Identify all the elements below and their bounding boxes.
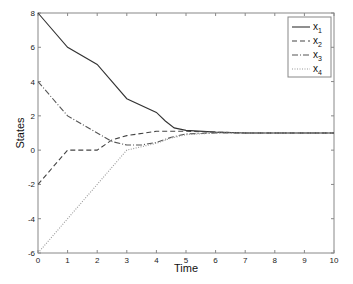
x-tick-label: 10	[330, 256, 339, 265]
y-tick-label: 2	[31, 112, 36, 121]
legend: x1x2x3x4	[288, 17, 331, 77]
y-tick-label: -6	[28, 249, 36, 258]
y-tick-label: 6	[31, 43, 36, 52]
x-axis-label: Time	[174, 262, 198, 274]
y-axis-label: States	[14, 117, 26, 149]
x-tick-label: 2	[95, 256, 100, 265]
x-tick-label: 0	[36, 256, 41, 265]
x-tick-label: 6	[213, 256, 218, 265]
y-tick-label: -4	[28, 215, 36, 224]
legend-box	[288, 17, 331, 77]
y-tick-label: 8	[31, 9, 36, 18]
x-tick-label: 4	[154, 256, 159, 265]
x-tick-label: 7	[243, 256, 248, 265]
line-chart: 012345678910 -6-4-202468 Time States x1x…	[0, 0, 353, 284]
x-tick-label: 8	[273, 256, 278, 265]
x-tick-label: 1	[65, 256, 70, 265]
x-tick-label: 9	[302, 256, 307, 265]
y-tick-label: 4	[31, 78, 36, 87]
y-tick-label: -2	[28, 180, 36, 189]
x-tick-label: 3	[125, 256, 130, 265]
y-tick-label: 0	[31, 146, 36, 155]
